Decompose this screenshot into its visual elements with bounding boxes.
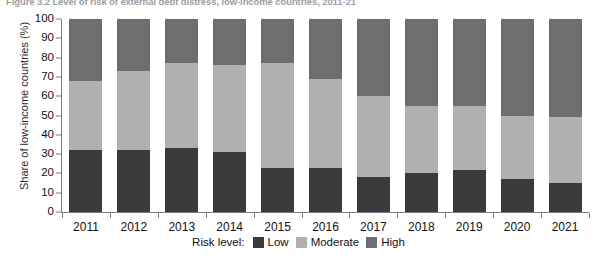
bar-segment-moderate[interactable]	[69, 81, 102, 150]
x-axis-tick-mark	[158, 213, 159, 218]
legend-item-high[interactable]: High	[366, 236, 405, 248]
y-axis-tick-label: 60	[24, 90, 54, 102]
x-axis-tick-mark	[206, 213, 207, 218]
bar-segment-low[interactable]	[357, 177, 390, 212]
bar-segment-moderate[interactable]	[405, 106, 438, 174]
bar-segment-low[interactable]	[165, 148, 198, 212]
bar-segment-low[interactable]	[453, 170, 486, 212]
bar-segment-moderate[interactable]	[261, 63, 294, 167]
x-axis-tick-mark	[254, 213, 255, 218]
bar-segment-low[interactable]	[501, 179, 534, 212]
bar-segment-moderate[interactable]	[549, 117, 582, 183]
y-axis-tick-label: 20	[24, 168, 54, 180]
x-axis-line	[61, 212, 589, 213]
x-axis-tick-mark	[397, 213, 398, 218]
bar-stack	[453, 19, 486, 212]
bar-segment-high[interactable]	[69, 19, 102, 81]
bar-segment-high[interactable]	[261, 19, 294, 63]
x-axis-tick-mark	[110, 213, 111, 218]
figure-title-text: Level of risk of external debt distress,…	[52, 0, 355, 7]
chart-legend: Risk level: LowModerateHigh	[0, 236, 597, 248]
bar-segment-moderate[interactable]	[501, 116, 534, 180]
y-axis-tick-labels: 0102030405060708090100	[24, 12, 54, 212]
bar-segment-low[interactable]	[69, 150, 102, 212]
bar-group-2011[interactable]	[69, 19, 102, 212]
bar-stack	[309, 19, 342, 212]
y-axis-tick-label: 50	[24, 110, 54, 122]
x-axis-tick-mark	[62, 213, 63, 218]
y-axis-tick-label: 90	[24, 33, 54, 45]
bar-group-2017[interactable]	[357, 19, 390, 212]
x-axis-tick-label-2020: 2020	[504, 220, 531, 234]
bar-segment-high[interactable]	[453, 19, 486, 106]
bar-segment-moderate[interactable]	[117, 71, 150, 150]
bar-group-2018[interactable]	[405, 19, 438, 212]
x-axis-tick-mark	[349, 213, 350, 218]
legend-swatch-moderate	[296, 237, 307, 248]
y-axis-tick-label: 0	[24, 206, 54, 218]
legend-title: Risk level:	[192, 236, 244, 248]
bar-group-2014[interactable]	[213, 19, 246, 212]
x-axis-tick-label-2018: 2018	[408, 220, 435, 234]
x-axis-tick-label-2016: 2016	[312, 220, 339, 234]
bar-segment-moderate[interactable]	[357, 96, 390, 177]
bar-segment-low[interactable]	[261, 168, 294, 212]
x-axis-tick-mark	[541, 213, 542, 218]
bar-segment-high[interactable]	[357, 19, 390, 96]
legend-label: High	[381, 236, 405, 248]
bar-segment-low[interactable]	[117, 150, 150, 212]
bar-segment-low[interactable]	[405, 173, 438, 212]
bar-stack	[165, 19, 198, 212]
y-axis-tick-label: 40	[24, 129, 54, 141]
bar-segment-moderate[interactable]	[453, 106, 486, 170]
x-axis-tick-label-2011: 2011	[73, 220, 99, 234]
bar-segment-low[interactable]	[309, 168, 342, 212]
figure-title: Figure 3.2 Level of risk of external deb…	[6, 0, 591, 9]
bar-segment-high[interactable]	[405, 19, 438, 106]
legend-item-moderate[interactable]: Moderate	[296, 236, 360, 248]
bar-group-2013[interactable]	[165, 19, 198, 212]
y-axis-tick-label: 70	[24, 71, 54, 83]
bar-segment-high[interactable]	[309, 19, 342, 79]
bar-stack	[213, 19, 246, 212]
x-axis-tick-label-2013: 2013	[168, 220, 195, 234]
x-axis-tick-label-2014: 2014	[216, 220, 243, 234]
legend-label: Low	[268, 236, 289, 248]
bar-segment-high[interactable]	[165, 19, 198, 63]
bar-group-2012[interactable]	[117, 19, 150, 212]
y-axis-tick-label: 80	[24, 52, 54, 64]
x-axis-tick-mark	[493, 213, 494, 218]
figure-number: Figure 3.2	[6, 0, 50, 7]
bar-segment-moderate[interactable]	[165, 63, 198, 148]
bar-group-2021[interactable]	[549, 19, 582, 212]
legend-label: Moderate	[311, 236, 360, 248]
bar-group-2020[interactable]	[501, 19, 534, 212]
bar-stack	[549, 19, 582, 212]
x-axis-tick-mark	[589, 213, 590, 218]
bar-segment-high[interactable]	[549, 19, 582, 117]
bar-segment-high[interactable]	[213, 19, 246, 65]
bar-group-2016[interactable]	[309, 19, 342, 212]
bar-stack	[405, 19, 438, 212]
bar-segment-high[interactable]	[501, 19, 534, 116]
bar-stack	[357, 19, 390, 212]
y-axis-tick-label: 30	[24, 148, 54, 160]
bar-segment-high[interactable]	[117, 19, 150, 71]
bar-segment-low[interactable]	[549, 183, 582, 212]
bar-segment-moderate[interactable]	[309, 79, 342, 168]
bar-segment-low[interactable]	[213, 152, 246, 212]
x-axis-tick-label-2019: 2019	[456, 220, 483, 234]
bar-stack	[261, 19, 294, 212]
x-axis-tick-mark	[302, 213, 303, 218]
bar-group-2015[interactable]	[261, 19, 294, 212]
x-axis-tick-mark	[445, 213, 446, 218]
bar-group-2019[interactable]	[453, 19, 486, 212]
y-axis-tick-label: 100	[24, 13, 54, 25]
x-axis-tick-label-2012: 2012	[121, 220, 148, 234]
bar-segment-moderate[interactable]	[213, 65, 246, 152]
x-axis-tick-label-2021: 2021	[552, 220, 579, 234]
legend-item-low[interactable]: Low	[253, 236, 289, 248]
chart-area: Share of low-income countries (%) 010203…	[0, 12, 597, 227]
y-axis-tick-label: 10	[24, 187, 54, 199]
bar-stack	[117, 19, 150, 212]
